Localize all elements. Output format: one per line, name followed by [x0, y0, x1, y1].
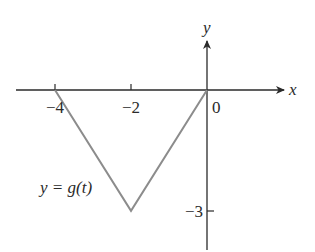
- x-tick-label--4: −4: [46, 98, 65, 117]
- x-axis-label: x: [288, 80, 297, 99]
- y-axis-label: y: [201, 18, 211, 37]
- chart: −4 −2 0 −3 x y y = g(t): [0, 0, 315, 252]
- x-tick-label--2: −2: [122, 98, 140, 117]
- y-tick-label--3: −3: [185, 202, 203, 221]
- origin-label: 0: [212, 98, 221, 117]
- curve-label: y = g(t): [38, 178, 92, 197]
